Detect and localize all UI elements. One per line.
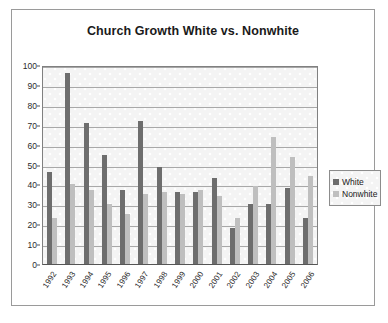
bar-nonwhite-1998 [162,192,167,264]
y-axis-tick-mark [37,245,40,246]
x-axis-tick: 1994 [79,266,97,312]
chart-legend: WhiteNonwhite [329,170,381,206]
y-axis-tick-mark [37,85,40,86]
bar-group [171,67,189,264]
x-axis-tick: 1993 [60,266,78,312]
bar-group [280,67,298,264]
legend-label: Nonwhite [342,189,377,199]
bar-nonwhite-1994 [89,190,94,264]
y-axis-tick-label: 50 [28,161,37,171]
bar-group [189,67,207,264]
y-axis-tick-label: 10 [28,240,37,250]
x-axis-tick-label: 1995 [96,270,113,290]
x-axis-tick: 1996 [116,266,134,312]
bar-nonwhite-2000 [198,190,203,264]
bar-group [116,67,134,264]
y-axis-tick-mark [37,265,40,266]
legend-item-nonwhite[interactable]: Nonwhite [333,189,377,199]
x-axis-tick: 1997 [134,266,152,312]
x-axis-tick: 1999 [171,266,189,312]
x-axis-tick-label: 2000 [189,270,206,290]
bar-group [43,67,61,264]
plot-area [42,66,318,265]
bar-nonwhite-1992 [52,218,57,264]
y-axis-tick-label: 20 [28,220,37,230]
x-axis-tick: 1998 [152,266,170,312]
bar-nonwhite-1995 [107,204,112,264]
y-axis-tick-mark [37,145,40,146]
x-axis-tick-label: 1993 [60,270,77,290]
bar-group [153,67,171,264]
y-axis-tick-label: 70 [28,121,37,131]
x-axis-tick: 2006 [300,266,318,312]
bar-nonwhite-2004 [271,137,276,264]
bar-group [134,67,152,264]
bar-nonwhite-1996 [125,214,130,264]
x-axis-tick-label: 2003 [244,270,261,290]
bar-nonwhite-1993 [70,184,75,264]
y-axis-tick-label: 60 [28,141,37,151]
x-axis-tick-label: 2005 [281,270,298,290]
x-axis-tick: 2002 [226,266,244,312]
x-axis-tick: 2005 [281,266,299,312]
chart-title: Church Growth White vs. Nonwhite [12,24,374,38]
x-axis-tick-label: 1997 [133,270,150,290]
y-axis-tick-label: 30 [28,200,37,210]
y-axis-tick-mark [37,66,40,67]
y-axis-tick-mark [37,185,40,186]
bar-group [61,67,79,264]
bar-nonwhite-2006 [308,176,313,264]
bar-group [226,67,244,264]
legend-swatch-nonwhite [333,191,339,197]
x-axis-tick-label: 1992 [41,270,58,290]
y-axis-tick-label: 80 [28,101,37,111]
x-axis-tick-label: 1998 [152,270,169,290]
bar-group [98,67,116,264]
x-axis-tick-label: 1994 [78,270,95,290]
bar-nonwhite-2001 [217,196,222,264]
x-axis-tick: 1992 [42,266,60,312]
y-axis-tick-mark [37,205,40,206]
x-axis-tick: 2001 [208,266,226,312]
x-axis-tick-label: 1999 [170,270,187,290]
x-axis-tick-label: 2006 [299,270,316,290]
x-axis-tick-label: 2001 [207,270,224,290]
x-axis-tick-label: 2004 [262,270,279,290]
bar-nonwhite-2002 [235,218,240,264]
bar-group [80,67,98,264]
y-axis-tick-mark [37,125,40,126]
y-axis-tick-mark [37,105,40,106]
chart-frame: Church Growth White vs. Nonwhite 0102030… [11,9,375,306]
x-axis-tick: 2000 [189,266,207,312]
x-axis-tick: 2004 [263,266,281,312]
x-axis-tick-label: 2002 [225,270,242,290]
bar-nonwhite-2003 [253,186,258,264]
x-axis: 1992199319941995199619971998199920002001… [42,266,318,312]
bar-nonwhite-1999 [180,194,185,264]
y-axis: 0102030405060708090100 [12,66,40,265]
y-axis-tick-mark [37,165,40,166]
bar-nonwhite-2005 [290,157,295,264]
y-axis-tick-mark [37,225,40,226]
x-axis-tick: 1995 [97,266,115,312]
bar-nonwhite-1997 [143,194,148,264]
x-axis-tick-label: 1996 [115,270,132,290]
legend-item-white[interactable]: White [333,177,377,187]
y-axis-tick-label: 100 [23,61,37,71]
x-axis-tick: 2003 [244,266,262,312]
y-axis-tick-label: 40 [28,180,37,190]
bar-group [207,67,225,264]
bar-group [299,67,317,264]
bar-group [262,67,280,264]
legend-swatch-white [333,179,339,185]
y-axis-tick-label: 90 [28,81,37,91]
bar-group [244,67,262,264]
legend-label: White [342,177,364,187]
bars-layer [43,67,317,264]
